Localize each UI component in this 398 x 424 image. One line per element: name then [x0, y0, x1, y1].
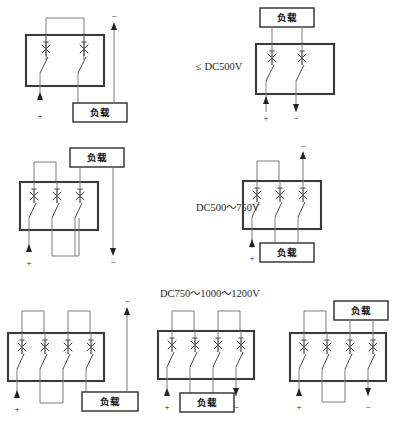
pole-2	[322, 333, 331, 402]
pole-4	[236, 331, 245, 396]
polarity-negative: −	[110, 257, 115, 267]
diagram-sheet: 负载 − + ≤ DC500V 负载 + −	[0, 0, 398, 424]
load-label: 负载	[100, 396, 120, 407]
breaker-enclosure	[256, 44, 334, 94]
negative-arrow-icon	[110, 248, 116, 256]
negative-arrow-icon	[111, 22, 117, 30]
circuit-diagram-canvas: 负载 − + ≤ DC500V 负载 + −	[0, 0, 398, 424]
pole-1	[40, 35, 50, 100]
polarity-positive: +	[26, 258, 31, 268]
jumper-wire-upper	[34, 162, 56, 182]
diagram-four-pole-load-top-right: 负载 + −	[290, 301, 388, 412]
pole-2	[40, 333, 49, 403]
load-label: 负载	[87, 152, 107, 163]
positive-arrow-icon	[14, 390, 20, 398]
pole-3	[298, 156, 307, 252]
diagram-four-pole-load-bottom-right: 负载 − +	[8, 296, 138, 414]
load-label: 负载	[277, 247, 297, 258]
load-label: 负载	[277, 12, 297, 23]
jumper-wire-b	[218, 311, 240, 331]
polarity-positive: +	[164, 402, 169, 412]
polarity-positive: +	[37, 111, 42, 121]
voltage-label-row2: DC500～750V	[196, 202, 260, 213]
pole-3	[213, 331, 222, 394]
pole-2	[190, 331, 199, 394]
jumper-wire-a	[304, 311, 326, 333]
pole-1	[29, 182, 38, 252]
polarity-positive: +	[249, 253, 254, 263]
pole-1	[252, 181, 261, 248]
polarity-positive: +	[263, 113, 268, 123]
load-label: 负载	[351, 305, 371, 316]
pole-1	[167, 331, 176, 396]
diagram-two-pole-series-left: 负载 − +	[26, 11, 127, 122]
pole-2	[296, 44, 306, 112]
pole-3	[63, 333, 72, 403]
positive-arrow-icon	[37, 92, 43, 100]
polarity-negative: −	[365, 402, 370, 412]
pole-1	[17, 333, 26, 398]
polarity-positive: +	[14, 404, 19, 414]
polarity-negative: −	[124, 296, 129, 306]
polarity-negative: −	[111, 11, 116, 21]
pole-2	[275, 181, 284, 252]
negative-arrow-icon	[293, 104, 299, 112]
voltage-label-row1: ≤ DC500V	[196, 61, 243, 72]
pole-1	[299, 333, 308, 396]
negative-arrow-icon	[365, 388, 371, 396]
jumper-wire-b	[68, 311, 90, 333]
positive-arrow-icon	[296, 388, 302, 396]
positive-arrow-icon	[249, 239, 255, 247]
jumper-wire-upper	[257, 161, 279, 181]
breaker-enclosure	[26, 35, 104, 86]
pole-4	[368, 320, 377, 396]
jumper-wire-a	[22, 311, 44, 333]
jumper-wire-a	[172, 311, 194, 331]
negative-arrow-icon	[124, 307, 130, 315]
pole-3	[75, 167, 84, 256]
pole-2	[78, 35, 88, 104]
diagram-three-pole-load-top-left: 负载 − +	[20, 148, 124, 268]
positive-arrow-icon	[26, 244, 32, 252]
diagram-two-pole-load-top-right: 负载 + −	[256, 8, 334, 123]
load-label: 负载	[90, 107, 110, 118]
diagram-four-pole-load-bottom-center: 负载 + −	[158, 311, 254, 412]
load-label: 负载	[197, 397, 217, 408]
jumper-wire	[46, 18, 84, 60]
positive-arrow-icon	[164, 388, 170, 396]
polarity-positive: +	[296, 402, 301, 412]
pole-4	[86, 333, 95, 393]
polarity-negative: −	[300, 141, 305, 151]
polarity-negative: −	[293, 113, 298, 123]
polarity-negative: −	[233, 402, 238, 412]
positive-arrow-icon	[263, 96, 269, 104]
pole-2	[52, 182, 61, 256]
voltage-label-row3: DC750～1000～1200V	[160, 288, 260, 299]
negative-arrow-icon	[300, 151, 306, 159]
